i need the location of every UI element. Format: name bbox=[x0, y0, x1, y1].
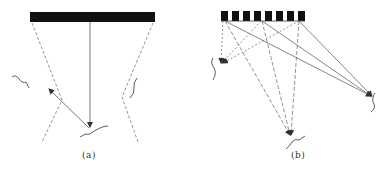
panel-b bbox=[212, 11, 375, 149]
transducer-bar bbox=[30, 12, 155, 22]
surface-left bbox=[12, 76, 29, 88]
reflected-beam-arrow bbox=[49, 89, 89, 128]
panel-b-label: (b) bbox=[291, 150, 305, 160]
surface-right bbox=[130, 78, 137, 98]
beam-boundary-right bbox=[122, 23, 153, 142]
diagram-canvas bbox=[0, 0, 380, 173]
surface-bottom bbox=[80, 126, 108, 137]
beam-boundary-left bbox=[32, 23, 62, 142]
target-left-surface bbox=[212, 58, 216, 80]
beams-bottom-target bbox=[225, 21, 299, 135]
beams-right-target bbox=[225, 21, 372, 96]
beams-left-target bbox=[221, 21, 299, 63]
target-bottom-surface bbox=[286, 136, 305, 149]
array-elements bbox=[221, 11, 305, 21]
panel-a-label: (a) bbox=[82, 150, 96, 160]
panel-a bbox=[12, 12, 155, 142]
